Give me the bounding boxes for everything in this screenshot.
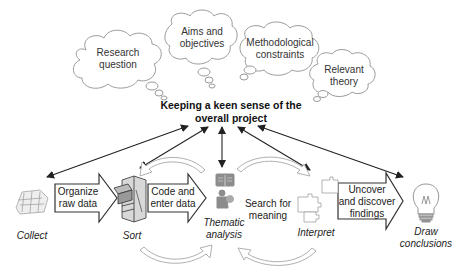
paper-pile-icon <box>16 190 48 214</box>
pointer-arrows <box>47 126 403 177</box>
cloud-text-line: question <box>84 59 152 71</box>
stage-label-interpret: Interpret <box>294 227 338 239</box>
cloud-label-research-question: Research question <box>84 47 152 71</box>
central-label-line: overall project <box>148 112 314 125</box>
book-person-icon <box>216 174 234 208</box>
cloud-text-line: objectives <box>170 38 234 50</box>
arrow-text-line: Code and <box>149 186 197 198</box>
cycle-arrow-bottom-right <box>238 248 316 265</box>
arrow-text-line: and discover <box>338 196 396 208</box>
stage-label-collect: Collect <box>10 230 54 242</box>
stage-label-thematic-analysis: Thematic analysis <box>200 217 248 241</box>
arrow-text-line: raw data <box>56 198 100 210</box>
cloud-text-line: Research <box>84 47 152 59</box>
cloud-label-relevant-theory: Relevant theory <box>316 64 372 88</box>
puzzle-icon <box>298 177 338 222</box>
stage-text-line: Draw <box>398 226 454 238</box>
cycle-arrow-top-left <box>140 157 205 176</box>
stage-label-sort: Sort <box>114 230 150 242</box>
arrow-label-search-meaning: Search for meaning <box>243 198 293 222</box>
stage-text-line: analysis <box>200 229 248 241</box>
cloud-text-line: Relevant <box>316 64 372 76</box>
arrow-text-line: enter data <box>149 198 197 210</box>
cloud-text-line: Aims and <box>170 26 234 38</box>
central-label: Keeping a keen sense of the overall proj… <box>148 99 314 125</box>
central-label-line: Keeping a keen sense of the <box>148 99 314 112</box>
stage-text-line: Thematic <box>200 217 248 229</box>
arrow-label-organize: Organize raw data <box>56 186 100 210</box>
lightbulb-icon <box>413 184 438 222</box>
cycle-arrow-bottom-left <box>140 245 212 263</box>
arrow-text-line: Search for <box>243 198 293 210</box>
cloud-text-line: theory <box>316 76 372 88</box>
arrow-text-line: Organize <box>56 186 100 198</box>
cloud-text-line: Methodological <box>242 37 318 49</box>
cycle-arrow-top-right <box>237 157 310 176</box>
cloud-label-aims-objectives: Aims and objectives <box>170 26 234 50</box>
filing-cabinet-icon <box>114 176 146 222</box>
stage-label-draw-conclusions: Draw conclusions <box>398 226 454 250</box>
arrow-text-line: meaning <box>243 210 293 222</box>
arrow-text-line: Uncover <box>338 184 396 196</box>
cloud-label-methodological-constraints: Methodological constraints <box>242 37 318 61</box>
arrow-label-code-enter: Code and enter data <box>149 186 197 210</box>
stage-text-line: conclusions <box>398 238 454 250</box>
arrow-label-uncover: Uncover and discover findings <box>338 184 396 220</box>
arrow-text-line: findings <box>338 208 396 220</box>
cloud-text-line: constraints <box>242 49 318 61</box>
